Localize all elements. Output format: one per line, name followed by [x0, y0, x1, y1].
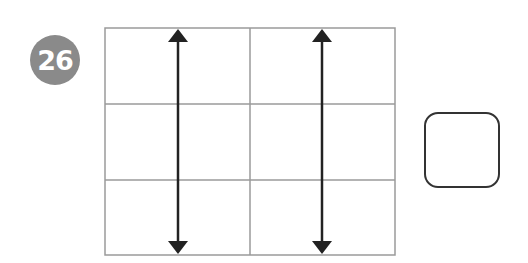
grid-figure — [104, 27, 396, 256]
grid-lines — [105, 28, 395, 255]
problem-number-badge: 26 — [30, 35, 80, 85]
answer-box[interactable] — [424, 112, 500, 188]
problem-number: 26 — [37, 45, 73, 76]
grid-svg — [104, 27, 396, 256]
double-arrow-icon — [312, 29, 332, 254]
double-arrow-icon — [168, 29, 188, 254]
